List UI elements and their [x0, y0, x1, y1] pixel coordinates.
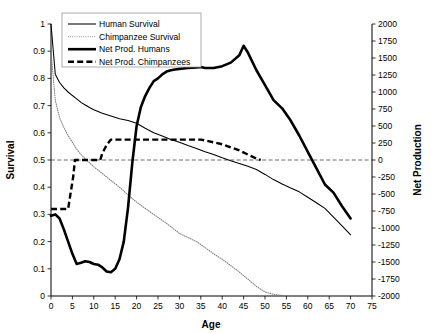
x-tick-label: 50	[260, 301, 270, 311]
y-tick-label: 0.3	[33, 209, 45, 219]
x-tick-label: 20	[132, 301, 142, 311]
y2-tick-label: -1500	[378, 257, 400, 267]
y-tick-label: 0.8	[33, 73, 45, 83]
y2-tick-label: -1250	[378, 240, 400, 250]
y2-tick-label: -250	[378, 172, 395, 182]
legend-label-2: Chimpanzee Survival	[99, 32, 180, 42]
x-tick-label: 70	[346, 301, 356, 311]
y2-tick-label: -1000	[378, 223, 400, 233]
y-left-axis-title: Survival	[5, 140, 16, 179]
x-tick-label: 75	[367, 301, 377, 311]
y-tick-label: 0.1	[33, 264, 45, 274]
x-tick-label: 40	[217, 301, 227, 311]
y2-tick-label: 500	[378, 121, 392, 131]
y2-tick-label: -1750	[378, 274, 400, 284]
y-tick-label: 1	[40, 19, 45, 29]
y2-tick-label: 1000	[378, 87, 397, 97]
chart-container: 051015202530354045505560657075 00.10.20.…	[0, 0, 431, 333]
legend-label-3: Net Prod. Humans	[99, 44, 170, 54]
chart-legend: Human SurvivalChimpanzee SurvivalNet Pro…	[62, 13, 201, 67]
x-tick-label: 45	[239, 301, 249, 311]
x-axis-title: Age	[202, 319, 221, 330]
y2-tick-label: 1250	[378, 70, 397, 80]
y2-tick-label: -750	[378, 206, 395, 216]
x-tick-label: 15	[110, 301, 120, 311]
x-tick-label: 5	[70, 301, 75, 311]
survival-net-production-chart: 051015202530354045505560657075 00.10.20.…	[0, 0, 431, 333]
y-tick-label: 0.7	[33, 101, 45, 111]
y2-tick-label: 250	[378, 138, 392, 148]
y2-tick-label: 2000	[378, 19, 397, 29]
y-tick-label: 0.4	[33, 182, 45, 192]
legend-label-4: Net Prod. Chimpanzees	[99, 57, 190, 67]
y2-tick-label: 750	[378, 104, 392, 114]
x-tick-label: 35	[196, 301, 206, 311]
x-tick-label: 60	[303, 301, 313, 311]
y2-tick-label: -500	[378, 189, 395, 199]
x-tick-label: 0	[49, 301, 54, 311]
legend-label-1: Human Survival	[99, 19, 160, 29]
x-tick-label: 10	[89, 301, 99, 311]
y-tick-label: 0.5	[33, 155, 45, 165]
x-tick-label: 55	[282, 301, 292, 311]
y-tick-label: 0	[40, 291, 45, 301]
y2-tick-label: 1500	[378, 53, 397, 63]
y2-tick-label: -2000	[378, 291, 400, 301]
y-tick-label: 0.9	[33, 46, 45, 56]
x-tick-label: 65	[324, 301, 334, 311]
y2-tick-label: 0	[378, 155, 383, 165]
y-tick-label: 0.6	[33, 128, 45, 138]
x-tick-label: 25	[153, 301, 163, 311]
y-right-axis-title: Net Production	[412, 124, 423, 196]
x-tick-label: 30	[175, 301, 185, 311]
y-tick-label: 0.2	[33, 237, 45, 247]
y2-tick-label: 1750	[378, 36, 397, 46]
